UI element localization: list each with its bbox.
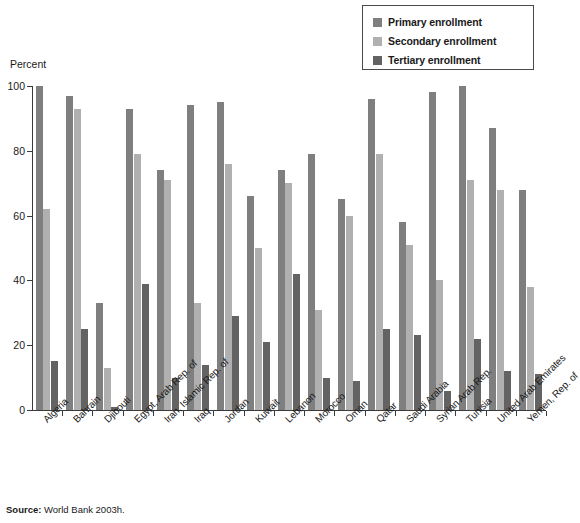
bar-group [92, 86, 122, 410]
x-axis-tick-mark [213, 411, 214, 416]
source-note: Source: World Bank 2003h. [6, 504, 125, 515]
bar-group [334, 86, 364, 410]
x-axis-tick-mark [425, 411, 426, 416]
x-axis-tick-mark [62, 411, 63, 416]
legend-item-tertiary: Tertiary enrollment [373, 51, 533, 69]
bar-group [153, 86, 183, 410]
bar-secondary [255, 248, 262, 410]
bar-secondary [467, 180, 474, 410]
bar-group [32, 86, 62, 410]
bar-primary [157, 170, 164, 410]
bar-tertiary [293, 274, 300, 410]
bar-primary [126, 109, 133, 410]
bar-secondary [225, 164, 232, 410]
x-axis-tick-mark [244, 411, 245, 416]
bar-secondary [346, 216, 353, 410]
bar-group [244, 86, 274, 410]
legend-item-primary: Primary enrollment [373, 13, 533, 31]
legend-label-secondary: Secondary enrollment [388, 35, 496, 47]
bar-secondary [74, 109, 81, 410]
square-swatch-icon [373, 37, 382, 46]
bar-primary [96, 303, 103, 410]
x-axis-tick-mark [365, 411, 366, 416]
x-axis-tick-mark [546, 411, 547, 416]
plot-area [32, 86, 546, 410]
chart-legend: Primary enrollment Secondary enrollment … [362, 5, 534, 70]
bar-tertiary [383, 329, 390, 410]
bar-group [123, 86, 153, 410]
bar-tertiary [142, 284, 149, 410]
bar-primary [429, 92, 436, 410]
square-swatch-icon [373, 56, 382, 65]
legend-label-tertiary: Tertiary enrollment [388, 54, 480, 66]
bar-secondary [43, 209, 50, 410]
square-swatch-icon [373, 18, 382, 27]
x-axis-tick-mark [486, 411, 487, 416]
bar-primary [66, 96, 73, 410]
x-axis-tick-mark [334, 411, 335, 416]
source-value: World Bank 2003h. [41, 504, 124, 515]
bar-primary [459, 86, 466, 410]
bar-group [395, 86, 425, 410]
y-axis-tick-label: 0 [19, 404, 25, 416]
bar-secondary [134, 154, 141, 410]
bar-primary [489, 128, 496, 410]
y-axis-tick-label: 20 [13, 339, 25, 351]
y-axis-tick-label: 60 [13, 210, 25, 222]
bar-group [455, 86, 485, 410]
bar-secondary [164, 180, 171, 410]
x-axis-tick-mark [123, 411, 124, 416]
y-axis-tick-label: 100 [7, 80, 25, 92]
bar-primary [308, 154, 315, 410]
bar-group [274, 86, 304, 410]
bar-tertiary [232, 316, 239, 410]
bar-group [516, 86, 546, 410]
bar-group [486, 86, 516, 410]
bar-group [365, 86, 395, 410]
bar-group [62, 86, 92, 410]
x-axis-tick-mark [395, 411, 396, 416]
bar-primary [368, 99, 375, 410]
bar-secondary [376, 154, 383, 410]
bar-secondary [285, 183, 292, 410]
bar-secondary [406, 245, 413, 410]
bar-group [304, 86, 334, 410]
bar-secondary [497, 190, 504, 410]
x-axis-tick-mark [274, 411, 275, 416]
y-axis-tick-label: 80 [13, 145, 25, 157]
bar-primary [338, 199, 345, 410]
bar-primary [247, 196, 254, 410]
bar-primary [519, 190, 526, 410]
bar-primary [399, 222, 406, 410]
y-axis-tick-mark [27, 410, 32, 411]
legend-label-primary: Primary enrollment [388, 16, 482, 28]
bar-secondary [104, 368, 111, 410]
bar-tertiary [414, 335, 421, 410]
y-axis-ticks: 020406080100 [0, 0, 25, 523]
legend-item-secondary: Secondary enrollment [373, 32, 533, 50]
bar-group [425, 86, 455, 410]
bar-tertiary [81, 329, 88, 410]
y-axis-tick-label: 40 [13, 274, 25, 286]
x-axis-tick-mark [516, 411, 517, 416]
x-axis-tick-mark [455, 411, 456, 416]
bar-secondary [315, 310, 322, 410]
bar-primary [36, 86, 43, 410]
source-label: Source: [6, 504, 41, 515]
x-axis-tick-mark [153, 411, 154, 416]
x-axis-tick-mark [304, 411, 305, 416]
x-axis-tick-mark [183, 411, 184, 416]
x-axis-tick-mark [92, 411, 93, 416]
bar-primary [278, 170, 285, 410]
